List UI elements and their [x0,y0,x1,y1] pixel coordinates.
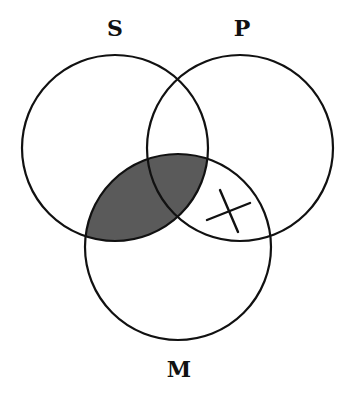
x-mark-icon [207,190,250,232]
label-p: P [234,15,251,41]
label-m: M [167,356,191,382]
venn-diagram: S P M [0,0,355,400]
label-s: S [107,15,123,41]
circle-p [147,55,333,241]
